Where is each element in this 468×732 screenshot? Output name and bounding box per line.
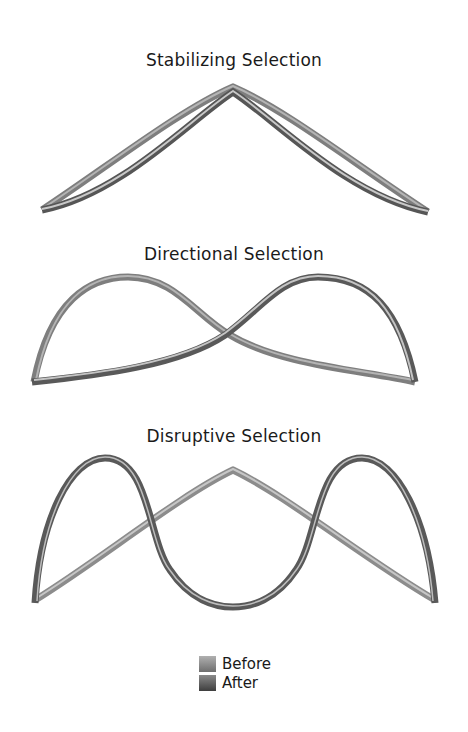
legend-item-after: After: [199, 673, 271, 692]
legend: Before After: [199, 654, 271, 692]
curves-canvas: [0, 0, 468, 732]
disruptive-selection-title: Disruptive Selection: [0, 426, 468, 446]
after-swatch-icon: [199, 675, 216, 691]
legend-label-after: After: [222, 674, 258, 692]
legend-label-before: Before: [222, 655, 271, 673]
disruptive-after-curve: [35, 457, 435, 607]
stabilizing-after-curve: [42, 91, 428, 212]
stabilizing-selection-title: Stabilizing Selection: [0, 50, 468, 70]
directional-before-curve: [34, 276, 415, 382]
directional-selection-title: Directional Selection: [0, 244, 468, 264]
before-swatch-icon: [199, 656, 216, 672]
disruptive-before-curve: [35, 469, 435, 600]
legend-item-before: Before: [199, 654, 271, 673]
